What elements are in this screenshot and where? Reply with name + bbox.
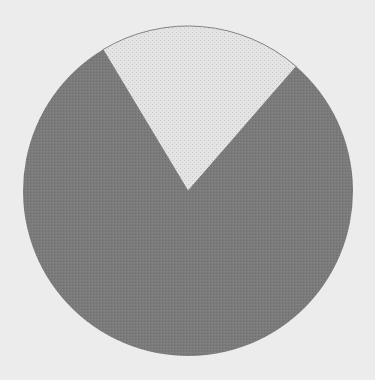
pie-chart bbox=[0, 0, 375, 380]
pie-chart-canvas bbox=[0, 0, 375, 380]
pie-slices bbox=[23, 26, 353, 356]
